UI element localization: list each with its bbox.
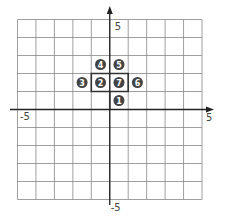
marker-label: 4 [98, 61, 104, 70]
marker-label: 5 [116, 61, 122, 70]
marker-label: 2 [98, 79, 104, 88]
y-axis-arrow-icon [107, 6, 113, 14]
y-axis-top-label: 5 [115, 21, 121, 32]
y-axis-bottom-label: -5 [111, 202, 121, 213]
marker-label: 6 [135, 79, 141, 88]
marker-label: 3 [79, 79, 85, 88]
coordinate-plane: 12345675-5-55 [0, 0, 225, 222]
x-axis-right-label: 5 [206, 112, 212, 123]
x-axis-left-label: -5 [20, 111, 30, 122]
marker-label: 7 [116, 79, 122, 88]
marker-label: 1 [116, 97, 122, 106]
